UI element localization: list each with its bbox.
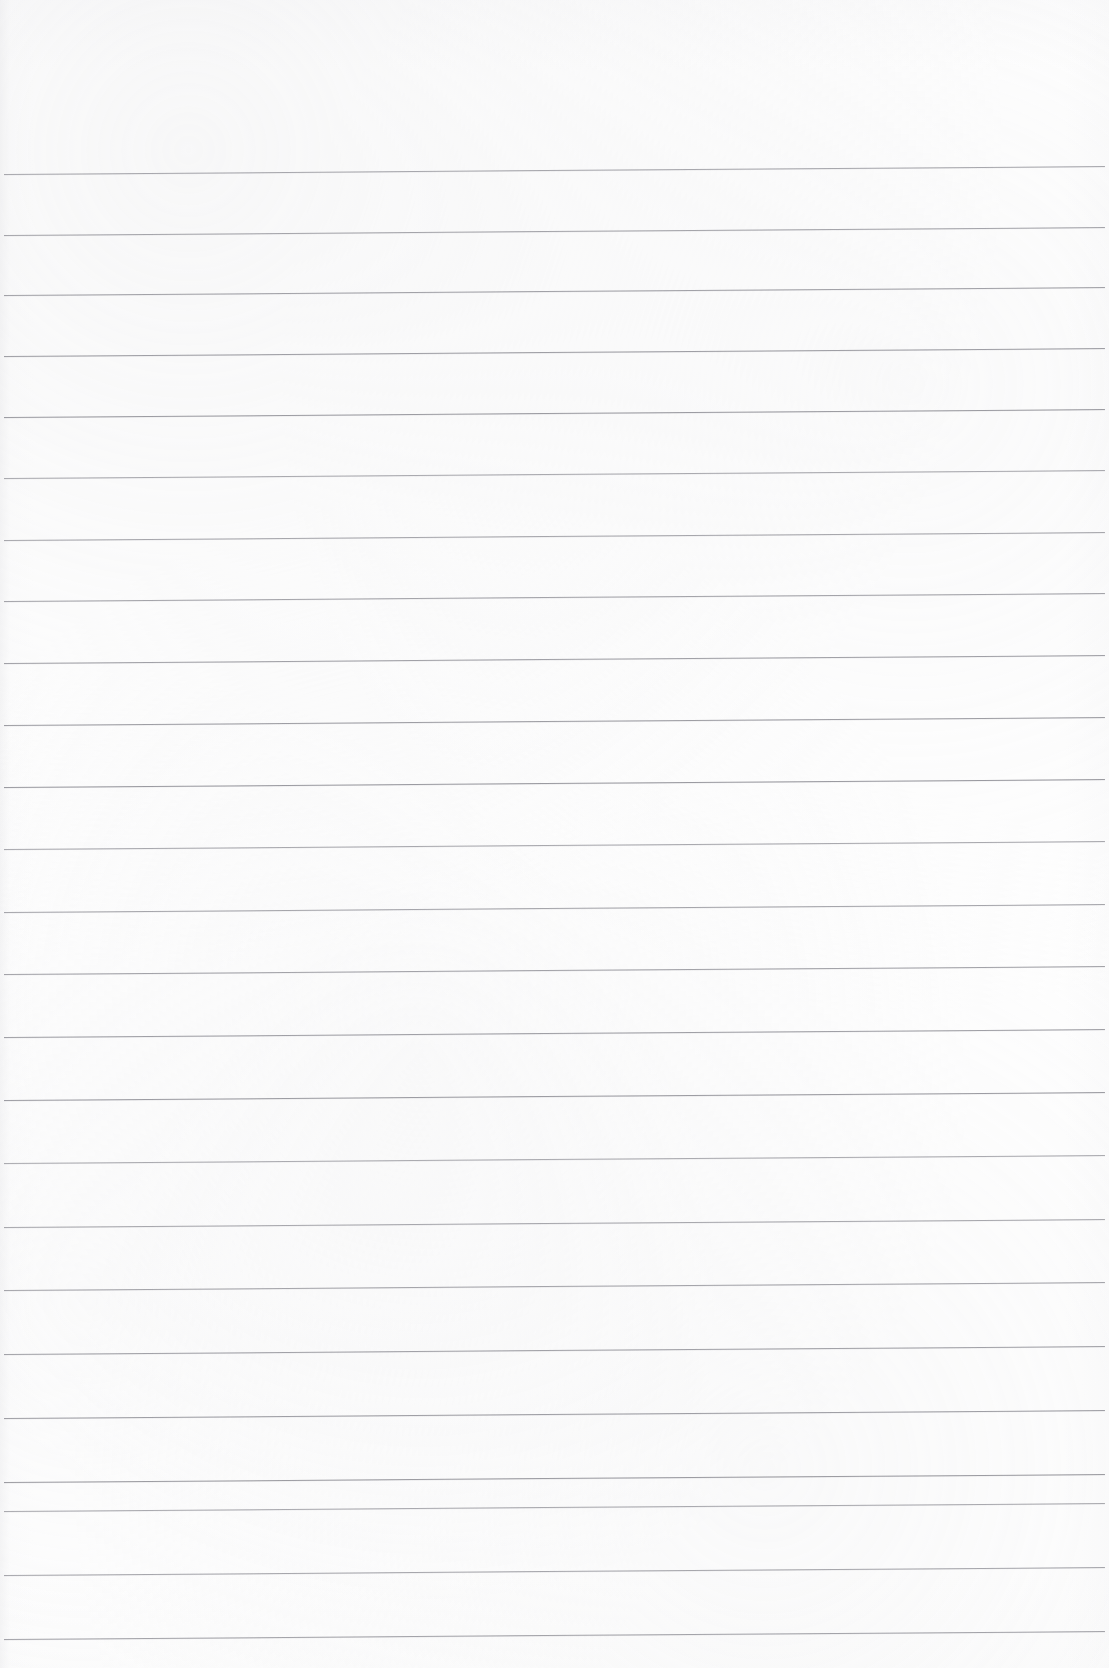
ruled-line	[4, 1092, 1105, 1101]
ruled-line	[4, 1282, 1105, 1291]
ruled-line	[4, 1410, 1105, 1419]
ruled-line	[4, 1346, 1105, 1355]
ruled-line	[4, 166, 1105, 175]
ruled-line	[4, 1631, 1105, 1640]
ruled-line	[4, 1503, 1105, 1512]
ruled-line	[4, 470, 1105, 479]
ruled-line	[4, 227, 1105, 236]
ruled-line	[4, 1219, 1105, 1228]
ruled-line	[4, 966, 1105, 975]
ruled-line	[4, 717, 1105, 726]
ruled-line	[4, 655, 1105, 664]
ruled-line	[4, 593, 1105, 602]
ruled-line	[4, 287, 1105, 296]
ruled-line	[4, 532, 1105, 541]
ruled-line	[4, 1474, 1105, 1483]
ruled-line	[4, 1155, 1105, 1164]
ruled-line	[4, 1567, 1105, 1576]
notebook-page	[0, 0, 1109, 1668]
ruled-line	[4, 841, 1105, 850]
ruled-line	[4, 779, 1105, 788]
ruled-line	[4, 409, 1105, 418]
ruled-line	[4, 1029, 1105, 1038]
ruled-lines-group	[0, 0, 1109, 1668]
ruled-line	[4, 348, 1105, 357]
ruled-line	[4, 904, 1105, 913]
